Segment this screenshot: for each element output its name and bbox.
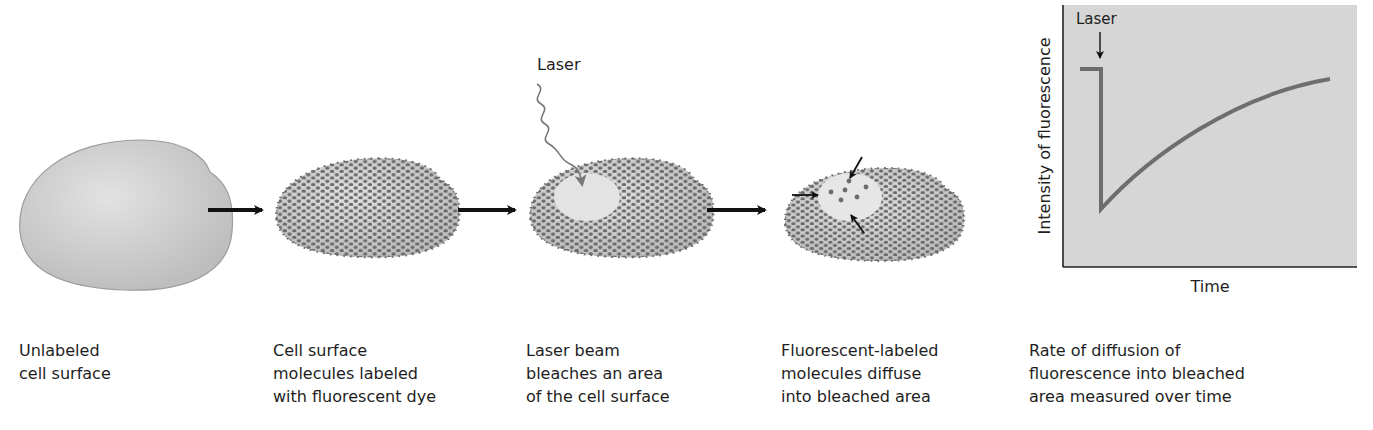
- unlabeled-cell: [20, 140, 233, 290]
- caption-line: Cell surface: [273, 339, 436, 362]
- chart-y-label: Intensity of fluorescence: [1035, 37, 1054, 234]
- diffusion-cell: [785, 157, 964, 261]
- chart-x-label: Time: [1189, 277, 1229, 296]
- caption-line: Unlabeled: [19, 339, 111, 362]
- caption-line: area measured over time: [1029, 385, 1245, 408]
- caption-line: Fluorescent-labeled: [781, 339, 939, 362]
- caption-measure: Rate of diffusion of fluorescence into b…: [1029, 339, 1245, 408]
- chart-annotation-laser: Laser: [1076, 10, 1118, 28]
- bleached-spot: [554, 173, 620, 221]
- bleached-cell: [530, 158, 713, 257]
- caption-line: of the cell surface: [526, 385, 670, 408]
- caption-line: bleaches an area: [526, 362, 670, 385]
- caption-line: Laser beam: [526, 339, 670, 362]
- caption-unlabeled: Unlabeled cell surface: [19, 339, 111, 385]
- caption-line: with fluorescent dye: [273, 385, 436, 408]
- caption-line: Rate of diffusion of: [1029, 339, 1245, 362]
- caption-diffuse: Fluorescent-labeled molecules diffuse in…: [781, 339, 939, 408]
- caption-line: into bleached area: [781, 385, 939, 408]
- caption-line: molecules labeled: [273, 362, 436, 385]
- laser-label: Laser: [537, 55, 581, 74]
- caption-line: molecules diffuse: [781, 362, 939, 385]
- chart-plot-area: [1063, 5, 1357, 267]
- labeled-cell: [276, 158, 459, 257]
- caption-line: cell surface: [19, 362, 111, 385]
- caption-bleach: Laser beam bleaches an area of the cell …: [526, 339, 670, 408]
- caption-line: fluorescence into bleached: [1029, 362, 1245, 385]
- caption-labeled: Cell surface molecules labeled with fluo…: [273, 339, 436, 408]
- fluorescence-chart: Laser Intensity of fluorescence Time: [1035, 5, 1357, 296]
